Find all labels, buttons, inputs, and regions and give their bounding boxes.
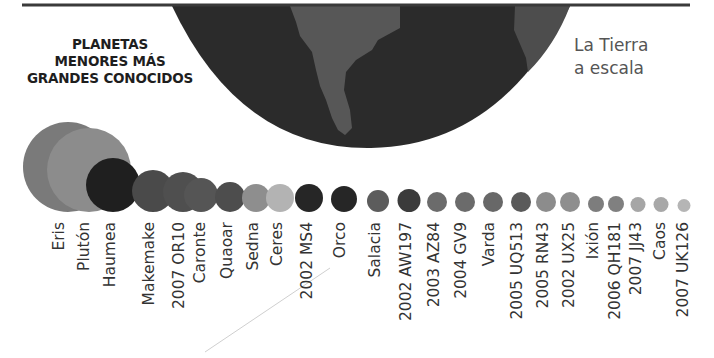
title-line-2: MENORES MÁS xyxy=(20,53,200,70)
earth-scale-annotation: La Tierra a escala xyxy=(574,34,648,80)
body-label: Caronte xyxy=(191,222,209,283)
bubble-quaoar xyxy=(215,182,245,212)
body-label: Plutón xyxy=(75,222,93,271)
bubble-orco xyxy=(331,186,357,212)
title-line-1: PLANETAS xyxy=(20,36,200,53)
bubble-sedna xyxy=(242,184,270,212)
bubble-ceres xyxy=(266,184,294,212)
bubble-2002-aw197 xyxy=(398,189,421,212)
body-label: Caos xyxy=(651,222,669,260)
bubble-2005-uq513 xyxy=(511,192,531,212)
body-label: 2002 MS4 xyxy=(298,222,316,299)
earth-label-line-1: La Tierra xyxy=(574,34,648,57)
body-label: 2007 OR10 xyxy=(170,222,188,309)
chart-title: PLANETAS MENORES MÁS GRANDES CONOCIDOS xyxy=(20,36,200,87)
body-label: Haumea xyxy=(101,222,119,287)
bubble-2005-rn43 xyxy=(536,192,556,212)
bubble-2006-qh181 xyxy=(608,196,624,212)
body-label: Varda xyxy=(480,222,498,266)
body-label: Orco xyxy=(331,222,349,258)
body-label: Eris xyxy=(50,222,68,251)
body-label: Makemake xyxy=(140,222,158,305)
bubble-2003-az84 xyxy=(427,192,447,212)
body-label: 2002 UX25 xyxy=(560,222,578,308)
bubble-2007-jj43 xyxy=(631,197,646,212)
bubble-2002-ms4 xyxy=(295,184,323,212)
bubble-2007-uk126 xyxy=(678,199,691,212)
body-label: Salacia xyxy=(366,222,384,277)
title-line-3: GRANDES CONOCIDOS xyxy=(20,70,200,87)
bubble-ixión xyxy=(588,196,604,212)
bubble-varda xyxy=(483,192,503,212)
earth-label-line-2: a escala xyxy=(574,57,648,80)
body-label: 2007 UK126 xyxy=(674,222,692,317)
body-label: 2002 AW197 xyxy=(397,222,415,321)
body-label: Quaoar xyxy=(218,222,236,279)
bubble-caos xyxy=(654,197,669,212)
bubble-haumea xyxy=(86,158,140,212)
bubble-salacia xyxy=(367,190,389,212)
body-label: 2003 AZ84 xyxy=(425,222,443,307)
body-label: Ixión xyxy=(584,222,602,259)
body-label: 2007 JJ43 xyxy=(627,222,645,295)
body-label: 2005 UQ513 xyxy=(508,222,526,320)
body-label: 2006 QH181 xyxy=(606,222,624,320)
body-label: 2005 RN43 xyxy=(534,222,552,308)
bubble-caronte xyxy=(184,178,218,212)
body-label: Sedna xyxy=(244,222,262,271)
bubble-2002-ux25 xyxy=(560,192,580,212)
body-label: Ceres xyxy=(268,222,286,266)
body-label: 2004 GV9 xyxy=(452,222,470,299)
bubble-2004-gv9 xyxy=(455,192,475,212)
